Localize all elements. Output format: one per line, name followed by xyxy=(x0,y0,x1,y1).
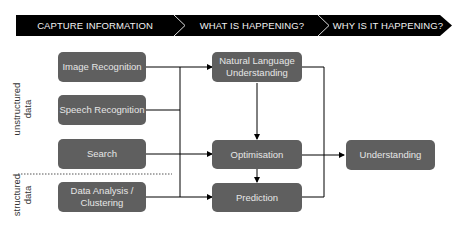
box-understanding: Understanding xyxy=(346,140,435,170)
box-optimisation: Optimisation xyxy=(212,140,302,169)
structured-data-label: structured data xyxy=(11,170,35,220)
box-speech-recognition: Speech Recognition xyxy=(58,95,146,125)
box-data-analysis-clustering: Data Analysis / Clustering xyxy=(58,182,146,212)
unstructured-data-label: unstructured data xyxy=(11,79,35,139)
box-image-recognition: Image Recognition xyxy=(58,52,146,82)
box-search: Search xyxy=(58,139,146,169)
box-natural-language-understanding: Natural Language Understanding xyxy=(212,52,302,82)
box-prediction: Prediction xyxy=(212,183,302,212)
